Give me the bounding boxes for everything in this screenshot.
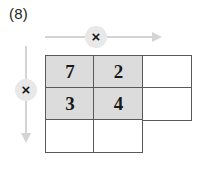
grid-cell-value: 3 xyxy=(46,94,94,113)
grid-cell-r2c1[interactable] xyxy=(93,119,143,153)
grid-cell-r0c0[interactable]: 7 xyxy=(45,55,95,89)
multiplication-grid-figure: (8) × × 7 2 3 4 xyxy=(0,0,207,185)
arrow-right-icon xyxy=(152,32,162,42)
grid-cell-r1c1[interactable]: 4 xyxy=(93,87,143,121)
row-multiply-operator-badge: × xyxy=(85,26,107,48)
grid-cell-r0c2[interactable] xyxy=(142,55,192,89)
grid-cell-value: 4 xyxy=(94,94,142,113)
arrow-down-icon xyxy=(21,133,31,143)
grid-cell-value: 2 xyxy=(94,62,142,81)
grid-cell-r1c0[interactable]: 3 xyxy=(45,87,95,121)
grid-cell-r2c0[interactable] xyxy=(45,119,95,153)
grid-cell-r0c1[interactable]: 2 xyxy=(93,55,143,89)
problem-number-label: (8) xyxy=(9,6,28,21)
number-grid: 7 2 3 4 xyxy=(45,55,195,175)
grid-cell-r1c2[interactable] xyxy=(142,87,192,121)
grid-cell-value: 7 xyxy=(46,62,94,81)
column-multiply-operator-badge: × xyxy=(15,79,37,101)
